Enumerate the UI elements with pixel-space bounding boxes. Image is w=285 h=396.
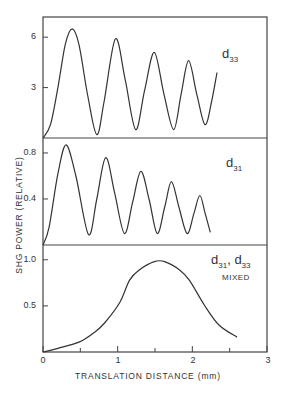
bottom-panel-note: MIXED bbox=[222, 273, 250, 282]
series-line-d33 bbox=[43, 29, 217, 138]
label-subscript-2: 33 bbox=[242, 261, 251, 270]
top-panel-y-tick-3: 3 bbox=[12, 82, 36, 92]
y-axis-label: SHG POWER (RELATIVE) bbox=[14, 150, 24, 280]
bottom-panel-label: d31, d33 bbox=[211, 252, 251, 270]
series-line-d31 bbox=[43, 145, 210, 245]
top-panel-y-tick-6: 6 bbox=[12, 31, 36, 41]
plot-frame bbox=[43, 17, 267, 352]
label-d2: d bbox=[234, 252, 241, 267]
middle-panel-label: d31 bbox=[226, 155, 242, 173]
data-curves bbox=[43, 29, 237, 352]
label-subscript: 31 bbox=[218, 261, 227, 270]
bottom-panel-y-tick-0.5: 0.5 bbox=[12, 300, 36, 310]
label-subscript: 33 bbox=[229, 55, 238, 64]
series-line-d31-d33-mixed bbox=[43, 261, 237, 352]
x-axis-label: TRANSLATION DISTANCE (mm) bbox=[75, 371, 221, 381]
label-subscript: 31 bbox=[233, 164, 242, 173]
top-panel-label: d33 bbox=[222, 46, 238, 64]
x-tick-2: 2 bbox=[185, 355, 201, 365]
axis-ticks bbox=[43, 37, 267, 352]
x-tick-3: 3 bbox=[260, 355, 276, 365]
x-tick-1: 1 bbox=[110, 355, 126, 365]
x-tick-0: 0 bbox=[35, 355, 51, 365]
panel-frames bbox=[43, 17, 267, 352]
chart-figure bbox=[0, 0, 285, 396]
